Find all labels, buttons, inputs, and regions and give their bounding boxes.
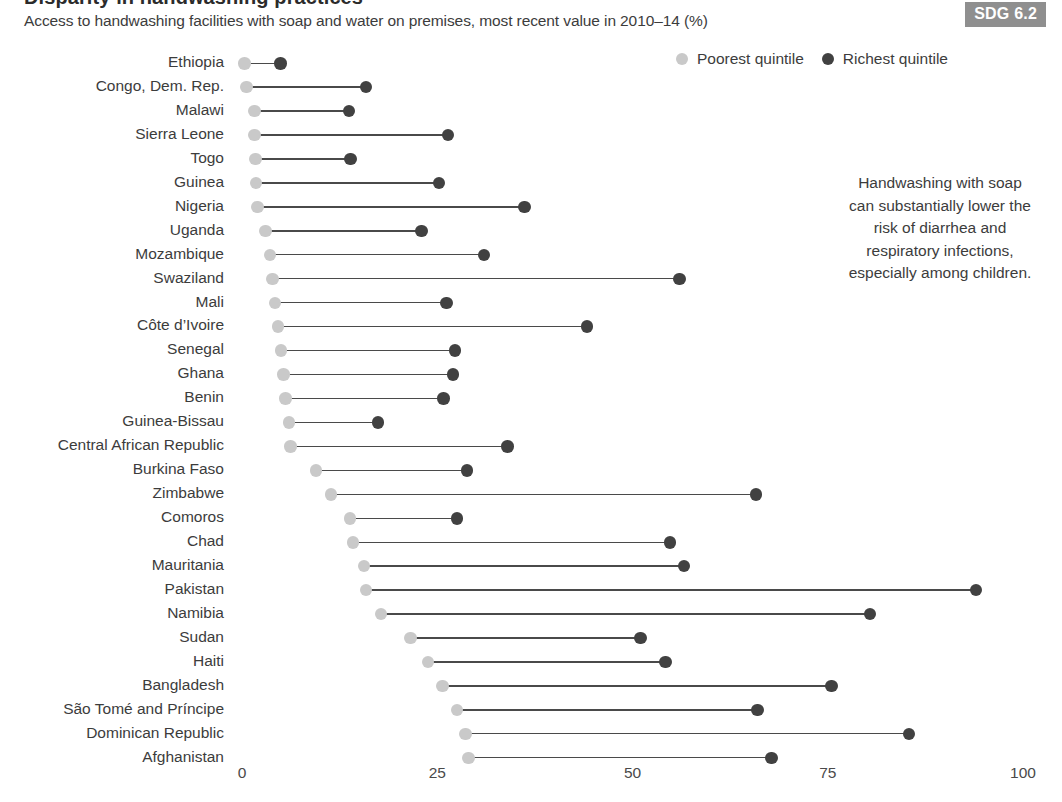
poorest-quintile-dot[interactable] [238, 57, 251, 70]
poorest-quintile-dot[interactable] [344, 512, 357, 525]
poorest-quintile-dot[interactable] [310, 464, 323, 477]
poorest-quintile-dot[interactable] [360, 584, 373, 597]
richest-quintile-dot[interactable] [903, 728, 916, 741]
poorest-quintile-dot[interactable] [283, 416, 296, 429]
poorest-quintile-dot[interactable] [248, 129, 261, 142]
connector-line [290, 446, 507, 447]
richest-quintile-dot[interactable] [581, 320, 594, 333]
country-label: Ghana [0, 364, 224, 382]
poorest-quintile-dot[interactable] [358, 560, 371, 573]
poorest-quintile-dot[interactable] [462, 752, 475, 765]
axis-tick-label: 100 [1010, 764, 1036, 782]
richest-quintile-dot[interactable] [451, 512, 464, 525]
x-axis: 0255075100 [0, 764, 1062, 790]
chart-row: Chad [0, 531, 1062, 555]
richest-quintile-dot[interactable] [664, 536, 677, 549]
country-label: Mauritania [0, 556, 224, 574]
poorest-quintile-dot[interactable] [347, 536, 360, 549]
richest-quintile-dot[interactable] [437, 392, 450, 405]
poorest-quintile-dot[interactable] [269, 297, 282, 310]
poorest-quintile-dot[interactable] [240, 81, 253, 94]
richest-quintile-dot[interactable] [751, 704, 764, 717]
country-label: Senegal [0, 340, 224, 358]
poorest-quintile-dot[interactable] [275, 344, 288, 357]
richest-quintile-dot[interactable] [274, 57, 287, 70]
poorest-quintile-dot[interactable] [248, 105, 261, 118]
poorest-quintile-dot[interactable] [325, 488, 338, 501]
poorest-quintile-dot[interactable] [272, 320, 285, 333]
chart-row: Sierra Leone [0, 124, 1062, 148]
axis-tick-label: 75 [819, 764, 836, 782]
country-label: Mali [0, 293, 224, 311]
richest-quintile-dot[interactable] [678, 560, 691, 573]
country-label: Comoros [0, 508, 224, 526]
connector-line [281, 350, 455, 351]
richest-quintile-dot[interactable] [415, 225, 428, 238]
richest-quintile-dot[interactable] [659, 656, 672, 669]
richest-quintile-dot[interactable] [765, 752, 778, 765]
poorest-quintile-dot[interactable] [277, 368, 290, 381]
poorest-quintile-dot[interactable] [451, 704, 464, 717]
richest-quintile-dot[interactable] [750, 488, 763, 501]
richest-quintile-dot[interactable] [442, 129, 455, 142]
connector-line [272, 278, 679, 279]
poorest-quintile-dot[interactable] [251, 201, 264, 214]
country-label: Afghanistan [0, 748, 224, 766]
chart-row: Mozambique [0, 244, 1062, 268]
richest-quintile-dot[interactable] [461, 464, 474, 477]
richest-quintile-dot[interactable] [864, 608, 877, 621]
richest-quintile-dot[interactable] [343, 105, 356, 118]
richest-quintile-dot[interactable] [478, 249, 491, 262]
richest-quintile-dot[interactable] [433, 177, 446, 190]
poorest-quintile-dot[interactable] [266, 273, 279, 286]
richest-quintile-dot[interactable] [449, 344, 462, 357]
poorest-quintile-dot[interactable] [422, 656, 435, 669]
richest-quintile-dot[interactable] [440, 297, 453, 310]
richest-quintile-dot[interactable] [970, 584, 983, 597]
country-label: Sudan [0, 628, 224, 646]
poorest-quintile-dot[interactable] [284, 440, 297, 453]
country-label: Burkina Faso [0, 460, 224, 478]
chart-row: Haiti [0, 651, 1062, 675]
country-label: Swaziland [0, 269, 224, 287]
poorest-quintile-dot[interactable] [259, 225, 272, 238]
connector-line [468, 757, 771, 758]
poorest-quintile-dot[interactable] [436, 680, 449, 693]
connector-line [254, 110, 349, 111]
richest-quintile-dot[interactable] [372, 416, 385, 429]
axis-tick-label: 0 [238, 764, 247, 782]
richest-quintile-dot[interactable] [501, 440, 514, 453]
connector-line [465, 733, 909, 734]
connector-line [258, 206, 525, 207]
chart-row: Ghana [0, 363, 1062, 387]
chart-row: Zimbabwe [0, 483, 1062, 507]
richest-quintile-dot[interactable] [360, 81, 373, 94]
poorest-quintile-dot[interactable] [459, 728, 472, 741]
richest-quintile-dot[interactable] [447, 368, 460, 381]
poorest-quintile-dot[interactable] [404, 632, 417, 645]
poorest-quintile-dot[interactable] [279, 392, 292, 405]
dumbbell-plot: EthiopiaCongo, Dem. Rep.MalawiSierra Leo… [0, 0, 1062, 802]
connector-line [278, 326, 587, 327]
axis-tick-label: 50 [624, 764, 641, 782]
connector-line [255, 158, 350, 159]
connector-line [270, 254, 484, 255]
poorest-quintile-dot[interactable] [249, 153, 262, 166]
richest-quintile-dot[interactable] [825, 680, 838, 693]
connector-line [457, 709, 758, 710]
poorest-quintile-dot[interactable] [375, 608, 388, 621]
chart-row: Comoros [0, 507, 1062, 531]
poorest-quintile-dot[interactable] [264, 249, 277, 262]
country-label: Togo [0, 149, 224, 167]
connector-line [428, 661, 665, 662]
connector-line [247, 86, 366, 87]
richest-quintile-dot[interactable] [518, 201, 531, 214]
richest-quintile-dot[interactable] [344, 153, 357, 166]
chart-row: Bangladesh [0, 675, 1062, 699]
connector-line [275, 302, 447, 303]
richest-quintile-dot[interactable] [673, 273, 686, 286]
richest-quintile-dot[interactable] [634, 632, 647, 645]
connector-line [331, 494, 756, 495]
country-label: Central African Republic [0, 436, 224, 454]
poorest-quintile-dot[interactable] [250, 177, 263, 190]
